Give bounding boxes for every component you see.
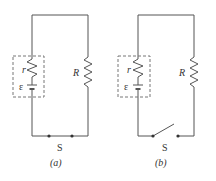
load-resistor-b: [190, 55, 198, 136]
internal-resistor-a: [27, 55, 37, 82]
switch-b-contact-left: [151, 134, 154, 137]
caption-a: (a): [50, 157, 62, 169]
circuit-b: [118, 15, 198, 136]
load-resistor-a: [84, 55, 92, 136]
circuit-a: [13, 15, 92, 136]
label-R-b: R: [178, 67, 185, 78]
label-r-b: r: [127, 64, 131, 75]
label-emf-a: ε: [19, 81, 23, 92]
label-R-a: R: [72, 67, 79, 78]
caption-b: (b): [155, 157, 167, 169]
label-switch-b: S: [162, 142, 168, 153]
circuit-figure: r ε R S (a) r ε R S (b): [0, 0, 216, 181]
switch-b-contact-right: [176, 134, 179, 137]
switch-a-contact-right: [70, 134, 73, 137]
wire-b-top: [138, 15, 194, 55]
label-emf-b: ε: [124, 81, 128, 92]
label-switch-a: S: [57, 142, 63, 153]
switch-a-contact-left: [47, 134, 50, 137]
switch-b-blade: [153, 124, 174, 136]
label-r-a: r: [22, 64, 26, 75]
internal-resistor-b: [133, 55, 143, 82]
wire-a-top: [32, 15, 88, 55]
